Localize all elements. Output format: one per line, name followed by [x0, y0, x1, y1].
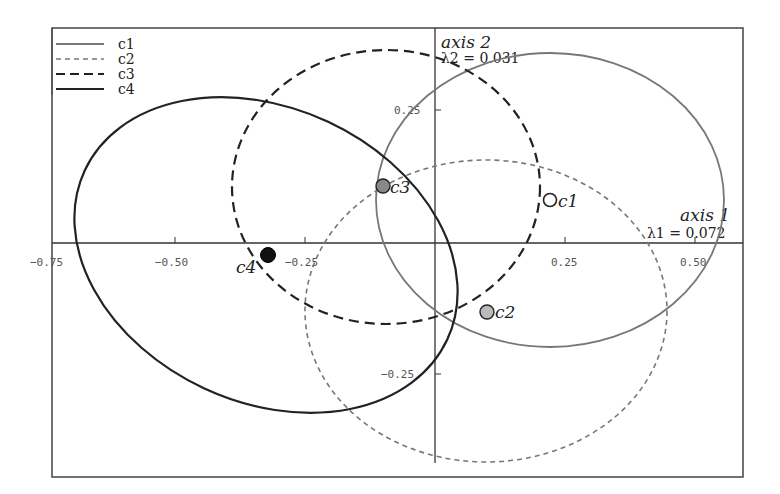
x-tick-label: 0.50 — [680, 256, 707, 269]
x-tick-label: −0.50 — [155, 256, 188, 269]
point-c2 — [480, 305, 494, 319]
legend: c1 c2 c3 c4 — [52, 28, 135, 97]
axis-2-title: axis 2 — [441, 32, 491, 52]
plot-frame — [52, 28, 743, 477]
x-tick-label: 0.25 — [551, 256, 578, 269]
legend-label-c3: c3 — [118, 66, 135, 82]
point-label-c1: c1 — [558, 191, 578, 211]
point-label-c3: c3 — [390, 177, 410, 197]
y-tick-label: −0.25 — [381, 368, 414, 381]
point-c3 — [376, 179, 390, 193]
axis-1-eigenvalue: λ1 = 0.072 — [647, 225, 726, 241]
confidence-ellipses — [23, 37, 724, 473]
legend-label-c2: c2 — [118, 51, 135, 67]
point-label-c2: c2 — [495, 302, 515, 322]
point-c1 — [544, 194, 557, 207]
legend-label-c4: c4 — [118, 81, 135, 97]
x-tick-label: −0.75 — [30, 256, 63, 269]
point-c4 — [261, 248, 276, 263]
point-label-c4: c4 — [236, 257, 256, 277]
factorial-map-chart: −0.75 −0.50 −0.25 0.25 0.50 0.25 −0.25 a… — [0, 0, 780, 494]
legend-label-c1: c1 — [118, 36, 135, 52]
centroids: c1 c2 c3 c4 — [236, 177, 578, 322]
